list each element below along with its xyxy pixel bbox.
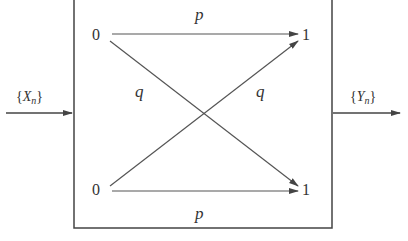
output-label: {Yn} (350, 89, 376, 106)
channel-diagram: {Xn} {Yn} 0 0 1 1 p q q p (0, 0, 408, 241)
output-node-top: 1 (302, 26, 310, 43)
input-node-bottom: 0 (92, 181, 100, 198)
input-node-top: 0 (92, 26, 100, 43)
edge-label-bottom-p: p (194, 204, 204, 223)
input-label: {Xn} (16, 89, 43, 106)
edge-label-cross-q-left: q (135, 82, 144, 101)
edge-label-top-p: p (194, 5, 204, 24)
edge-label-cross-q-right: q (256, 82, 265, 101)
output-node-bottom: 1 (302, 181, 310, 198)
